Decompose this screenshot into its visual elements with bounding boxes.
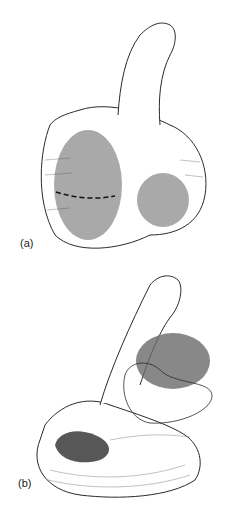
anatomical-illustration-a [0,0,235,265]
figure-panel-a: (a) [0,0,235,265]
anatomical-illustration-b [0,265,235,527]
panel-label-a: (a) [20,237,33,249]
figure-panel-b: (b) [0,265,235,527]
panel-label-b: (b) [18,477,31,489]
